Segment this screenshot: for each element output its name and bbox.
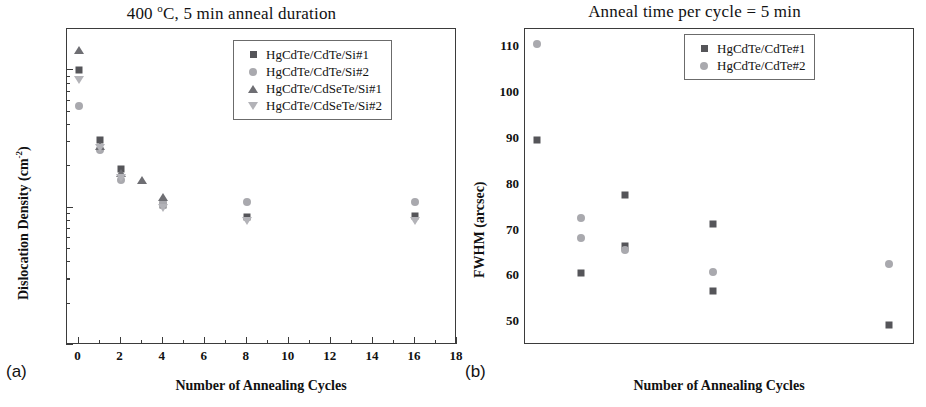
panel-b-legend: HgCdTe/CdTe#1HgCdTe/CdTe#2 xyxy=(684,34,815,80)
data-point-circle xyxy=(75,102,83,110)
data-point-square xyxy=(578,270,585,277)
x-tick-label: 0 xyxy=(74,348,81,364)
legend-marker-triangle-up xyxy=(248,85,258,93)
y-tick-major xyxy=(66,344,73,345)
data-point-triangle-down xyxy=(410,217,420,225)
data-point-circle xyxy=(577,234,585,242)
x-tick-major xyxy=(330,337,331,344)
panel-b-label: (b) xyxy=(465,362,486,382)
data-point-circle xyxy=(533,40,541,48)
data-point-triangle-up xyxy=(137,176,147,184)
panel-a-title-rest: C, 5 min anneal duration xyxy=(163,4,336,23)
y-tick-label: 110 xyxy=(473,38,519,54)
x-tick-minor xyxy=(435,340,436,344)
panel-a-y-axis-title-exp: -2 xyxy=(14,151,24,159)
legend-key xyxy=(691,62,717,70)
x-tick-major xyxy=(162,337,163,344)
data-point-circle xyxy=(621,246,629,254)
legend-label: HgCdTe/CdSeTe/Si#1 xyxy=(266,81,382,97)
panel-a-y-axis-title-close: ) xyxy=(16,146,31,151)
data-point-square xyxy=(75,67,82,74)
data-point-circle xyxy=(709,268,717,276)
x-tick-label: 4 xyxy=(158,348,165,364)
y-tick-major xyxy=(66,69,73,70)
x-tick-minor xyxy=(393,340,394,344)
legend-key xyxy=(240,85,266,93)
x-tick-major xyxy=(456,337,457,344)
legend-row: HgCdTe/CdTe#2 xyxy=(691,57,805,74)
y-tick-minor xyxy=(66,100,70,101)
panel-a-y-axis-title: Dislocation Density (cm-2) xyxy=(14,146,32,300)
data-point-square xyxy=(534,137,541,144)
legend-row: HgCdTe/CdTe#1 xyxy=(691,40,805,57)
legend-label: HgCdTe/CdTe/Si#1 xyxy=(266,47,369,63)
legend-row: HgCdTe/CdTe/Si#2 xyxy=(240,63,382,80)
y-tick-minor xyxy=(66,141,70,142)
y-tick-minor xyxy=(66,76,70,77)
y-tick-minor xyxy=(66,220,70,221)
panel-b: Anneal time per cycle = 5 min 0246810121… xyxy=(463,0,926,407)
x-tick-major xyxy=(120,337,121,344)
legend-row: HgCdTe/CdSeTe/Si#1 xyxy=(240,80,382,97)
legend-marker-square xyxy=(250,51,257,58)
legend-key xyxy=(240,51,266,58)
panel-a: 400 oC, 5 min anneal duration 0246810121… xyxy=(0,0,463,407)
data-point-circle xyxy=(243,198,251,206)
data-point-triangle-up xyxy=(158,193,168,201)
panel-a-label: (a) xyxy=(6,362,27,382)
x-tick-minor xyxy=(267,340,268,344)
x-tick-label: 10 xyxy=(281,348,294,364)
x-tick-label: 2 xyxy=(116,348,123,364)
panel-a-x-axis-title: Number of Annealing Cycles xyxy=(66,378,456,394)
legend-marker-square xyxy=(701,45,708,52)
x-tick-major xyxy=(414,337,415,344)
y-tick-minor xyxy=(66,228,70,229)
legend-row: HgCdTe/CdSeTe/Si#2 xyxy=(240,97,382,114)
x-tick-minor xyxy=(225,340,226,344)
y-tick-minor xyxy=(66,124,70,125)
legend-key xyxy=(691,45,717,52)
data-point-circle xyxy=(577,214,585,222)
y-tick-minor xyxy=(66,83,70,84)
panel-a-title-main: 400 xyxy=(127,4,158,23)
x-tick-minor xyxy=(309,340,310,344)
x-tick-minor xyxy=(183,340,184,344)
y-tick-label: 50 xyxy=(473,313,519,329)
y-tick-minor xyxy=(66,165,70,166)
x-tick-label: 6 xyxy=(200,348,207,364)
y-tick-minor xyxy=(66,303,70,304)
x-tick-major xyxy=(372,337,373,344)
x-tick-minor xyxy=(351,340,352,344)
legend-key xyxy=(240,102,266,110)
y-tick-label: 90 xyxy=(473,130,519,146)
data-point-circle xyxy=(411,198,419,206)
panel-a-legend: HgCdTe/CdTe/Si#1HgCdTe/CdTe/Si#2HgCdTe/C… xyxy=(233,40,392,120)
legend-label: HgCdTe/CdTe/Si#2 xyxy=(266,64,369,80)
legend-marker-triangle-down xyxy=(248,102,258,110)
x-tick-minor xyxy=(141,340,142,344)
y-tick-label: 100 xyxy=(473,84,519,100)
data-point-triangle-down xyxy=(158,204,168,212)
panel-b-x-axis-title: Number of Annealing Cycles xyxy=(524,378,914,394)
x-tick-label: 12 xyxy=(323,348,336,364)
y-tick-minor xyxy=(66,91,70,92)
x-tick-label: 8 xyxy=(243,348,250,364)
panel-b-title: Anneal time per cycle = 5 min xyxy=(463,2,926,22)
data-point-triangle-down xyxy=(95,144,105,152)
panel-a-y-axis-title-main: Dislocation Density (cm xyxy=(16,158,31,300)
data-point-triangle-down xyxy=(74,76,84,84)
data-point-triangle-down xyxy=(242,217,252,225)
panel-b-y-axis-title: FWHM (arcsec) xyxy=(472,181,488,278)
legend-marker-circle xyxy=(700,62,708,70)
legend-label: HgCdTe/CdSeTe/Si#2 xyxy=(266,98,382,114)
y-tick-minor xyxy=(66,28,70,29)
y-tick-minor xyxy=(66,237,70,238)
y-tick-minor xyxy=(66,111,70,112)
data-point-triangle-down xyxy=(116,174,126,182)
y-tick-minor xyxy=(66,261,70,262)
data-point-circle xyxy=(885,260,893,268)
y-tick-minor xyxy=(66,278,70,279)
y-tick-minor xyxy=(66,248,70,249)
data-point-square xyxy=(885,322,892,329)
panel-a-title: 400 oC, 5 min anneal duration xyxy=(0,2,463,24)
